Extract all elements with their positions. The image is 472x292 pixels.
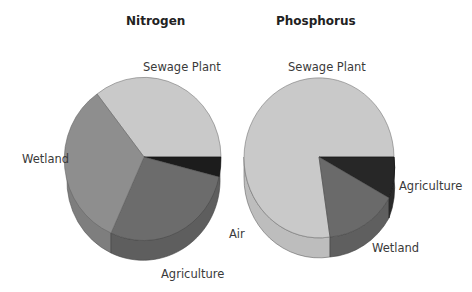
phosphorus-label-sewage-plant: Sewage Plant bbox=[288, 60, 366, 74]
phosphorus-label-agriculture: Agriculture bbox=[399, 179, 462, 193]
phosphorus-label-wetland: Wetland bbox=[372, 241, 419, 255]
phosphorus-pie bbox=[244, 78, 395, 258]
nitrogen-label-sewage-plant: Sewage Plant bbox=[143, 60, 221, 74]
nitrogen-label-agriculture: Agriculture bbox=[161, 267, 224, 281]
nitrogen-label-wetland: Wetland bbox=[22, 152, 69, 166]
nitrogen-pie bbox=[64, 77, 221, 260]
phosphorus-title: Phosphorus bbox=[276, 14, 356, 28]
phosphorus-label-air: Air bbox=[229, 227, 245, 241]
nitrogen-title: Nitrogen bbox=[126, 14, 185, 28]
